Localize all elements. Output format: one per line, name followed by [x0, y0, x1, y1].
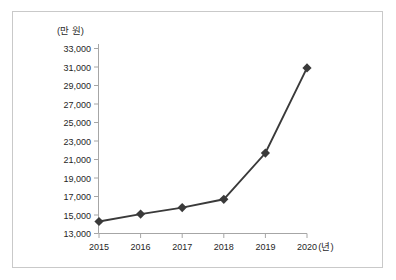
y-tick-label: 25,000 — [63, 118, 91, 128]
data-point-marker — [178, 203, 187, 212]
x-tick-label: 2018 — [214, 242, 234, 252]
x-tick-label: 2015 — [89, 242, 109, 252]
y-tick-label: 21,000 — [63, 155, 91, 165]
data-point-marker — [136, 209, 145, 218]
y-axis-ticks — [94, 49, 99, 234]
y-tick-label: 27,000 — [63, 100, 91, 110]
y-tick-label: 33,000 — [63, 44, 91, 54]
data-point-marker — [302, 63, 311, 72]
data-point-marker — [94, 217, 103, 226]
y-tick-label: 31,000 — [63, 63, 91, 73]
chart-figure: (만 원) 33,000 31,000 29,000 27,000 25,000… — [0, 0, 396, 280]
y-tick-label: 15,000 — [63, 211, 91, 221]
x-tick-label: 2016 — [131, 242, 151, 252]
y-tick-label: 17,000 — [63, 192, 91, 202]
y-tick-label: 19,000 — [63, 174, 91, 184]
x-axis-unit-label: (년) — [318, 241, 333, 252]
data-series-line — [99, 68, 307, 222]
x-tick-label: 2020 — [297, 242, 317, 252]
x-axis-ticks — [99, 234, 307, 239]
x-tick-label: 2017 — [172, 242, 192, 252]
y-axis-unit-label: (만 원) — [57, 25, 84, 36]
line-chart-plot: (만 원) 33,000 31,000 29,000 27,000 25,000… — [0, 0, 396, 280]
y-tick-label: 23,000 — [63, 137, 91, 147]
x-tick-label: 2019 — [255, 242, 275, 252]
y-tick-label: 13,000 — [63, 229, 91, 239]
data-point-markers — [94, 63, 311, 226]
y-tick-label: 29,000 — [63, 81, 91, 91]
